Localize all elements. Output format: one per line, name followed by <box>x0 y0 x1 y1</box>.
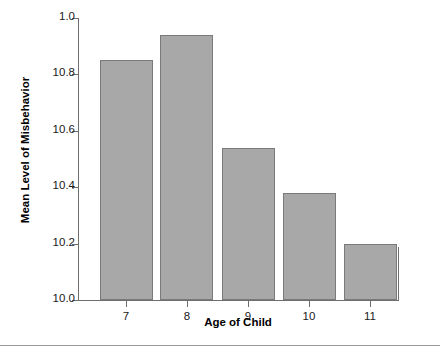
bar-chart-figure: Mean Level of Misbehavior 1.0 10.8 10.6 … <box>0 0 440 358</box>
bar-age-11 <box>344 244 397 300</box>
plot-right-border <box>398 247 399 301</box>
plot-area: 1.0 10.8 10.6 10.4 10.2 10.0 <box>78 18 398 300</box>
bar-age-8 <box>160 35 213 300</box>
footer-divider <box>0 345 440 346</box>
x-tick-mark <box>126 301 127 307</box>
bar-age-9 <box>222 148 275 300</box>
x-tick-mark <box>248 301 249 307</box>
y-tick-label: 10.6 <box>53 123 75 135</box>
y-axis-line <box>78 18 79 301</box>
bar-age-10 <box>283 193 336 300</box>
x-tick-mark <box>370 301 371 307</box>
x-axis-title: Age of Child <box>78 316 398 328</box>
x-tick-mark <box>187 301 188 307</box>
y-tick-label: 10.8 <box>53 66 75 78</box>
y-tick-label: 10.2 <box>53 236 75 248</box>
x-tick-mark <box>309 301 310 307</box>
bar-age-7 <box>100 60 153 300</box>
y-axis-title: Mean Level of Misbehavior <box>14 0 36 300</box>
y-tick-label: 1.0 <box>59 10 75 22</box>
y-tick-label: 10.4 <box>53 179 75 191</box>
y-tick-label: 10.0 <box>53 292 75 304</box>
